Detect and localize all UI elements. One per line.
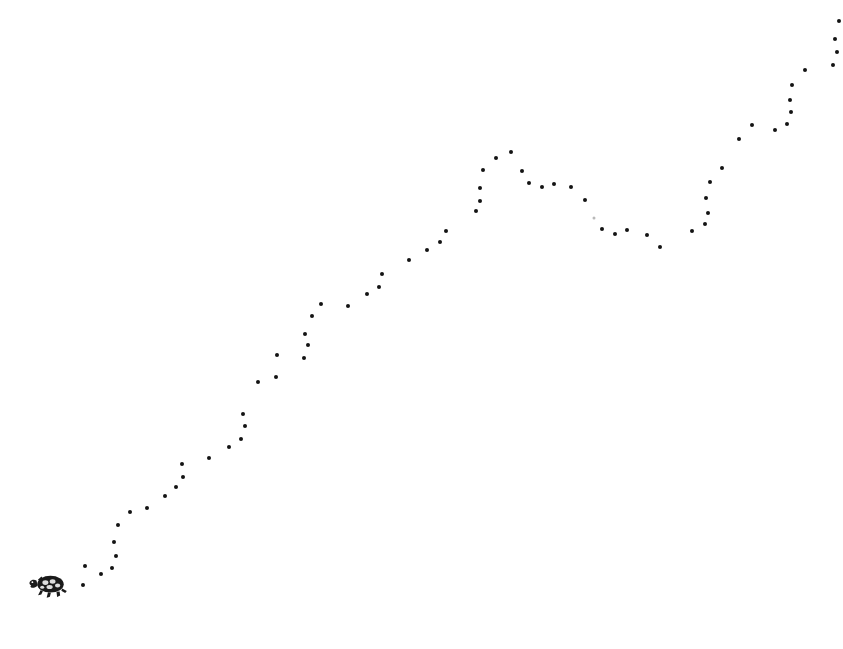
data-point — [552, 182, 556, 186]
turtle-icon — [28, 570, 68, 600]
data-point — [788, 98, 792, 102]
data-point — [625, 228, 629, 232]
data-point — [377, 285, 381, 289]
data-point — [274, 375, 278, 379]
data-point — [520, 169, 524, 173]
data-point — [180, 462, 184, 466]
data-point — [481, 168, 485, 172]
data-point — [302, 356, 306, 360]
data-point — [593, 217, 596, 220]
data-point — [690, 229, 694, 233]
data-point — [706, 211, 710, 215]
plot-area — [0, 0, 843, 649]
data-point — [785, 122, 789, 126]
data-point — [163, 494, 167, 498]
data-point — [241, 412, 245, 416]
data-point — [837, 19, 841, 23]
data-point — [128, 510, 132, 514]
data-point — [306, 343, 310, 347]
data-point — [145, 506, 149, 510]
data-point — [275, 353, 279, 357]
data-point — [114, 554, 118, 558]
data-point — [494, 156, 498, 160]
data-point — [256, 380, 260, 384]
data-point — [243, 424, 247, 428]
data-point — [583, 198, 587, 202]
data-point — [365, 292, 369, 296]
data-point — [425, 248, 429, 252]
data-point — [239, 437, 243, 441]
data-point — [600, 227, 604, 231]
data-point — [407, 258, 411, 262]
data-point — [509, 150, 513, 154]
data-point — [527, 181, 531, 185]
data-point — [444, 229, 448, 233]
data-point — [346, 304, 350, 308]
data-point — [835, 50, 839, 54]
data-point — [116, 523, 120, 527]
data-point — [803, 68, 807, 72]
data-point — [478, 199, 482, 203]
data-point — [110, 566, 114, 570]
data-point — [789, 110, 793, 114]
data-point — [474, 209, 478, 213]
data-point — [310, 314, 314, 318]
data-point — [207, 456, 211, 460]
data-point — [704, 196, 708, 200]
data-point — [380, 272, 384, 276]
data-point — [703, 222, 707, 226]
data-point — [790, 83, 794, 87]
data-point — [737, 137, 741, 141]
data-point — [833, 37, 837, 41]
data-point — [569, 185, 573, 189]
data-point — [81, 583, 85, 587]
data-point — [227, 445, 231, 449]
data-point — [181, 475, 185, 479]
data-point — [438, 240, 442, 244]
data-point — [613, 232, 617, 236]
data-point — [174, 485, 178, 489]
data-point — [83, 564, 87, 568]
data-point — [658, 245, 662, 249]
data-point — [112, 540, 116, 544]
data-point — [540, 185, 544, 189]
data-point — [99, 572, 103, 576]
scatter-chart-figure — [0, 0, 843, 649]
data-point — [708, 180, 712, 184]
data-point — [831, 63, 835, 67]
data-point — [773, 128, 777, 132]
data-point — [645, 233, 649, 237]
data-point — [303, 332, 307, 336]
data-point — [319, 302, 323, 306]
data-point — [720, 166, 724, 170]
data-point — [750, 123, 754, 127]
data-point — [478, 186, 482, 190]
